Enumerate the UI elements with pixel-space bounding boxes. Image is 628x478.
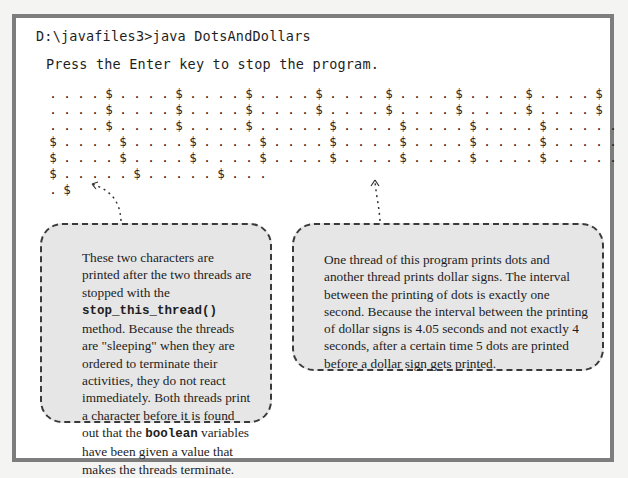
dot-char: .: [214, 102, 228, 118]
dollar-char: $: [256, 150, 270, 166]
dot-char: .: [508, 134, 522, 150]
dot-char: .: [298, 102, 312, 118]
dot-char: .: [270, 102, 284, 118]
dot-char: .: [270, 86, 284, 102]
dot-char: .: [410, 118, 424, 134]
dot-char: .: [88, 102, 102, 118]
dot-char: .: [578, 134, 592, 150]
dollar-char: $: [326, 134, 340, 150]
dot-char: .: [228, 86, 242, 102]
dollar-char: $: [536, 134, 550, 150]
dollar-char: $: [172, 86, 186, 102]
dot-char: .: [256, 118, 270, 134]
dot-char: .: [116, 102, 130, 118]
dollar-char: $: [522, 86, 536, 102]
dollar-char: $: [312, 102, 326, 118]
dot-char: .: [130, 150, 144, 166]
dot-char: .: [228, 118, 242, 134]
dot-char: .: [60, 150, 74, 166]
dollar-char: $: [46, 134, 60, 150]
dot-char: .: [200, 118, 214, 134]
dot-char: .: [382, 118, 396, 134]
dot-char: .: [116, 166, 130, 182]
dot-char: .: [340, 134, 354, 150]
dot-char: .: [424, 134, 438, 150]
dot-char: .: [354, 150, 368, 166]
dot-char: .: [452, 134, 466, 150]
dot-char: .: [102, 134, 116, 150]
dot-char: .: [284, 150, 298, 166]
dot-char: .: [424, 150, 438, 166]
dot-char: .: [508, 86, 522, 102]
dot-char: .: [564, 86, 578, 102]
dollar-char: $: [396, 134, 410, 150]
dot-char: .: [214, 150, 228, 166]
dot-char: .: [312, 134, 326, 150]
dot-char: .: [564, 102, 578, 118]
dot-char: .: [270, 150, 284, 166]
dot-char: .: [466, 102, 480, 118]
dot-char: .: [88, 150, 102, 166]
dot-char: .: [578, 118, 592, 134]
dot-char: .: [88, 134, 102, 150]
dot-char: .: [74, 134, 88, 150]
console-window-frame: D:\javafiles3>java DotsAndDollars Press …: [12, 14, 614, 462]
dot-char: .: [172, 150, 186, 166]
dollar-char: $: [242, 118, 256, 134]
dot-char: .: [564, 134, 578, 150]
dot-char: .: [312, 118, 326, 134]
dollar-char: $: [186, 150, 200, 166]
dot-char: .: [158, 166, 172, 182]
dot-char: .: [242, 134, 256, 150]
dollar-char: $: [242, 86, 256, 102]
dot-char: .: [242, 150, 256, 166]
dot-char: .: [144, 134, 158, 150]
dot-char: .: [256, 86, 270, 102]
dot-char: .: [130, 134, 144, 150]
dot-char: .: [214, 86, 228, 102]
dot-char: .: [256, 102, 270, 118]
dot-char: .: [144, 150, 158, 166]
dot-char: .: [200, 150, 214, 166]
dot-char: .: [284, 86, 298, 102]
dot-char: .: [130, 118, 144, 134]
dot-char: .: [438, 118, 452, 134]
dot-char: .: [508, 102, 522, 118]
dollar-char: $: [102, 118, 116, 134]
dot-char: .: [74, 102, 88, 118]
dot-char: .: [438, 102, 452, 118]
dot-char: .: [298, 118, 312, 134]
dot-char: .: [200, 134, 214, 150]
dot-char: .: [46, 182, 60, 198]
dollar-char: $: [130, 166, 144, 182]
dot-char: .: [158, 150, 172, 166]
dollar-char: $: [592, 102, 606, 118]
dot-char: .: [340, 102, 354, 118]
dot-char: .: [536, 86, 550, 102]
dot-char: .: [144, 102, 158, 118]
dollar-char: $: [466, 118, 480, 134]
dollar-char: $: [466, 134, 480, 150]
dollar-char: $: [60, 182, 74, 198]
dot-char: .: [74, 166, 88, 182]
dot-char: .: [354, 86, 368, 102]
dot-char: .: [592, 118, 606, 134]
dot-char: .: [144, 86, 158, 102]
dot-char: .: [550, 150, 564, 166]
dot-char: .: [74, 118, 88, 134]
dot-char: .: [396, 86, 410, 102]
callout-thread-intervals: One thread of this program prints dots a…: [292, 223, 604, 371]
dot-char: .: [130, 102, 144, 118]
dot-char: .: [298, 86, 312, 102]
dot-char: .: [438, 150, 452, 166]
dot-char: .: [550, 134, 564, 150]
dot-char: .: [592, 150, 606, 166]
dot-char: .: [494, 118, 508, 134]
dot-char: .: [564, 150, 578, 166]
dot-char: .: [410, 150, 424, 166]
dot-char: .: [144, 166, 158, 182]
dot-char: .: [368, 102, 382, 118]
dot-char: .: [536, 102, 550, 118]
dot-char: .: [326, 102, 340, 118]
dot-char: .: [116, 118, 130, 134]
